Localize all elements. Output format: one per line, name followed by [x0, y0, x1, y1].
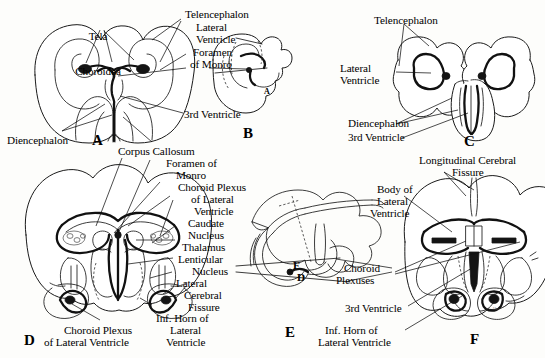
label-foramen-d-line2: Monro — [176, 170, 206, 182]
artist-signature: Ales — [492, 306, 499, 311]
label-lenticular-line1: Lenticular — [178, 254, 223, 266]
label-inf-horn-d-line3: Ventricle — [166, 337, 205, 349]
label-lateral-a-line2: Ventricle — [196, 34, 235, 46]
label-third-ventricle-a: 3rd Ventricle — [184, 109, 241, 121]
label-choroid-plexuses-line1: Choroid — [344, 263, 380, 275]
label-section-marker-d: D — [297, 272, 305, 284]
panel-c-drawing — [393, 37, 535, 141]
label-lateral-c-line1: Lateral — [340, 63, 371, 75]
label-choroid-plexuses-line2: Plexuses — [336, 275, 374, 287]
label-section-marker-f: F — [293, 260, 300, 272]
panel-letter-d: D — [24, 333, 35, 348]
label-lateral-fissure-line1: Lateral — [176, 278, 207, 290]
label-foramen-a-line2: of Monro — [190, 59, 232, 71]
label-inf-horn-f-line2: Lateral Ventricle — [318, 337, 391, 349]
label-lateral-a-line1: Lateral — [196, 22, 227, 34]
label-body-lateral-line1: Body of — [377, 184, 413, 196]
panel-letter-a: A — [92, 133, 103, 148]
label-inf-horn-d-line2: Lateral — [170, 325, 201, 337]
label-telencephalon-a: Telencephalon — [185, 9, 249, 21]
label-caudate-line1: Caudate — [188, 218, 224, 230]
label-long-fissure-line1: Longitudinal Cerebral — [419, 155, 516, 167]
label-body-lateral-line3: Ventricle — [370, 208, 409, 220]
label-diencephalon-a: Diencephalon — [7, 135, 68, 147]
label-tela-line1: Tela — [60, 31, 136, 43]
label-third-ventricle-f: 3rd Ventricle — [345, 303, 402, 315]
anatomy-figure: Tela Choroidea Telencephalon Lateral Ven… — [0, 0, 545, 358]
label-long-fissure-line2: Fissure — [452, 167, 484, 179]
label-diencephalon-c: Diencephalon — [348, 118, 409, 130]
label-corpus-callosum-d: Corpus Callosum — [118, 146, 195, 158]
label-choroid-plexus-d-line3: Ventricle — [194, 206, 233, 218]
label-tela-line2: Choroidea — [60, 66, 136, 78]
label-lenticular-line2: Nucleus — [192, 266, 228, 278]
panel-f-drawing — [404, 176, 545, 320]
label-choroid-plexus-bottom-line1: Choroid Plexus — [64, 325, 132, 337]
label-inf-horn-d-line1: Inf. Horn of — [156, 313, 209, 325]
label-body-lateral-line2: Lateral — [377, 196, 408, 208]
label-lateral-c-line2: Ventricle — [340, 75, 379, 87]
panel-letter-b: B — [243, 126, 253, 141]
label-lateral-fissure-line2: Cerebral — [184, 290, 222, 302]
label-third-ventricle-c: 3rd Ventricle — [348, 132, 405, 144]
panel-letter-c: C — [464, 134, 475, 149]
label-telencephalon-c: Telencephalon — [374, 15, 438, 27]
label-inf-horn-f-line1: Inf. Horn of — [325, 325, 378, 337]
panel-letter-e: E — [285, 325, 295, 340]
label-foramen-a-line1: Foramen — [193, 47, 232, 59]
panel-letter-f: F — [470, 332, 479, 347]
label-caudate-line2: Nucleus — [188, 230, 224, 242]
label-section-marker-a-in-b: A — [264, 86, 270, 98]
label-thalamus: Thalamus — [182, 242, 225, 254]
label-foramen-d-line1: Foramen of — [166, 158, 217, 170]
label-choroid-plexus-d-line1: Choroid Plexus — [178, 182, 246, 194]
label-choroid-plexus-d-line2: of Lateral — [191, 194, 234, 206]
label-choroid-plexus-bottom-line2: of Lateral Ventricle — [44, 337, 129, 349]
label-tela-choroidea: Tela Choroidea — [60, 8, 136, 101]
